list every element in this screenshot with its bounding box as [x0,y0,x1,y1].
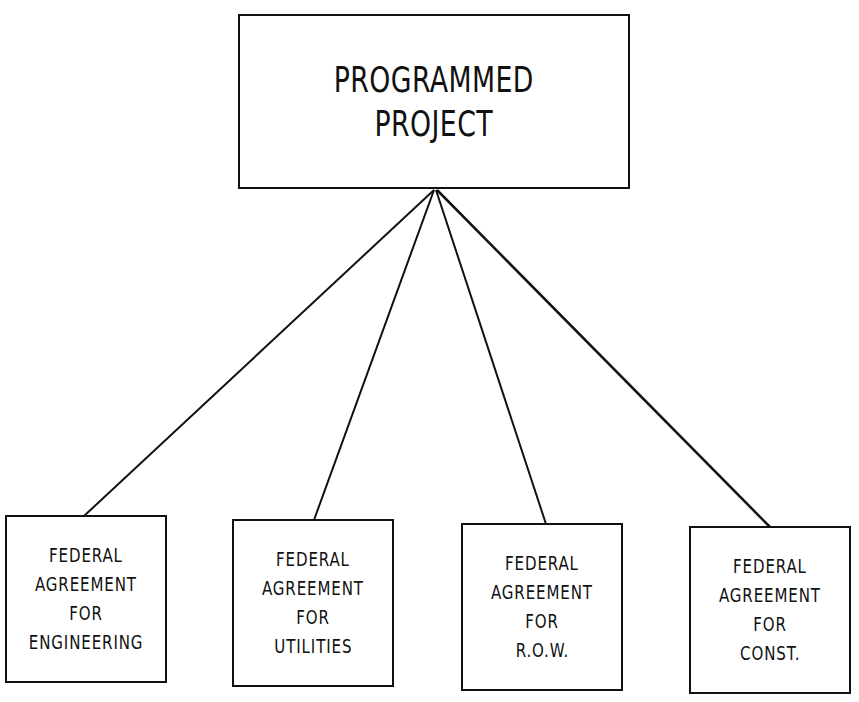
connector-row [436,190,546,524]
construction-agreement-box: FEDERAL AGREEMENT FOR CONST. [689,526,851,694]
engineering-agreement-box: FEDERAL AGREEMENT FOR ENGINEERING [5,515,167,683]
box-line: FOR [753,610,787,639]
box-line: UTILITIES [274,632,352,661]
connector-engineering [84,190,434,516]
connector-utilities [314,190,434,520]
box-line: FOR [525,607,559,636]
root-line-1: PROGRAMMED [334,58,534,102]
programmed-project-box: PROGRAMMED PROJECT [238,14,630,189]
box-line: AGREEMENT [262,574,364,603]
box-line: FEDERAL [276,545,350,574]
box-line: FOR [296,603,330,632]
box-line: AGREEMENT [491,578,593,607]
box-line: FEDERAL [733,552,807,581]
row-agreement-box: FEDERAL AGREEMENT FOR R.O.W. [461,523,623,691]
connector-const [437,190,770,527]
box-line: ENGINEERING [29,628,144,657]
utilities-agreement-box: FEDERAL AGREEMENT FOR UTILITIES [232,519,394,687]
box-line: AGREEMENT [35,570,137,599]
box-line: R.O.W. [515,636,569,665]
box-line: CONST. [740,639,800,668]
box-line: FEDERAL [505,549,579,578]
box-line: FEDERAL [49,541,123,570]
box-line: AGREEMENT [719,581,821,610]
box-line: FOR [69,599,103,628]
root-line-2: PROJECT [375,102,494,146]
